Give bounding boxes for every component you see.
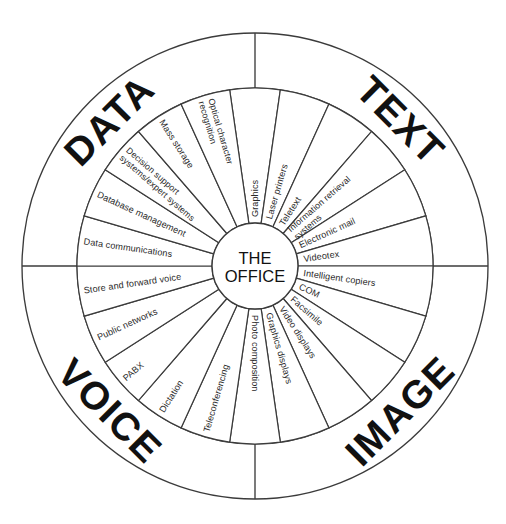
sector-label: Graphics — [250, 179, 260, 217]
hub-title-line2: OFFICE — [225, 267, 286, 285]
office-wheel-diagram: GraphicsLaser printersTeletextInformatio… — [0, 0, 506, 524]
hub-title-line1: THE — [239, 249, 272, 267]
radial-wheel-svg: GraphicsLaser printersTeletextInformatio… — [0, 0, 506, 524]
sector-label: Photo composition — [250, 315, 260, 392]
sector-label-line: Photo composition — [250, 315, 260, 392]
sector-label-line: Graphics — [250, 179, 260, 217]
